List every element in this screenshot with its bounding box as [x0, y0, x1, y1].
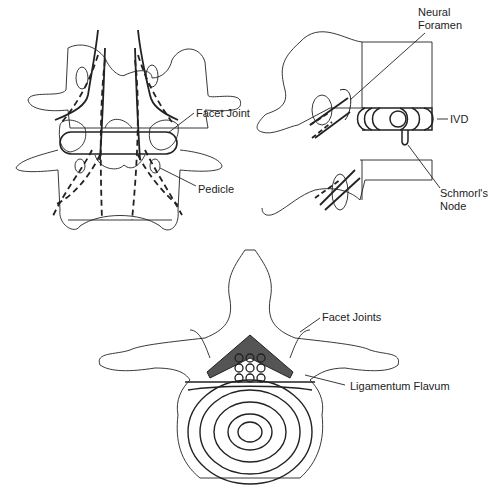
label-facet-joint: Facet Joint: [196, 107, 250, 119]
posterior-view-drawing: [16, 30, 241, 230]
label-schmorls-node-line1: Schmorl's: [440, 187, 488, 199]
label-schmorls-node-line2: Node: [440, 200, 466, 212]
label-neural-foramen-line1: Neural: [418, 6, 450, 18]
spine-diagram: [0, 0, 498, 493]
label-pedicle: Pedicle: [198, 183, 234, 195]
label-neural-foramen-line2: Foramen: [418, 19, 462, 31]
axial-view-drawing: [99, 250, 398, 484]
label-facet-joints: Facet Joints: [322, 311, 381, 323]
label-ligamentum-flavum: Ligamentum Flavum: [350, 380, 450, 392]
label-ivd: IVD: [450, 113, 468, 125]
lateral-view-drawing: [257, 32, 448, 215]
